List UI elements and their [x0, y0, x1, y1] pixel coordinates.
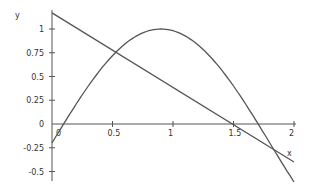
y-tick-label: 0: [39, 120, 44, 129]
y-tick-label: -0.5: [28, 168, 44, 177]
x-tick-label: 1.5: [229, 129, 242, 138]
y-tick-label: 0.75: [26, 49, 44, 58]
curve-series: [52, 29, 294, 182]
y-tick-label: 0.5: [31, 73, 44, 82]
y-tick-label: 0.25: [26, 96, 44, 105]
series: [52, 13, 294, 182]
x-tick-label: 0.5: [108, 129, 121, 138]
y-tick-label: 1: [39, 25, 44, 34]
x-tick-label: 2: [289, 129, 294, 138]
line-series: [52, 13, 294, 162]
y-tick-label: -0.25: [23, 144, 44, 153]
y-ticks: 10.750.50.250-0.25-0.5: [23, 25, 55, 177]
y-axis-label: y: [15, 11, 20, 20]
x-axis-label: x: [287, 149, 292, 158]
x-tick-label: 1: [168, 129, 173, 138]
chart: 00.511.52 10.750.50.250-0.25-0.5 y x: [0, 0, 312, 192]
